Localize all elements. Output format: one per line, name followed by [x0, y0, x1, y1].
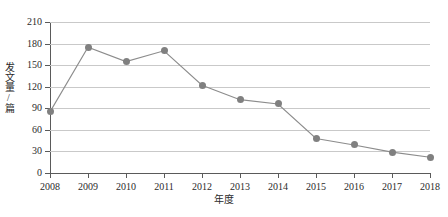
data-point-marker	[199, 82, 206, 89]
data-point-marker	[351, 141, 358, 148]
data-point-marker	[161, 47, 168, 54]
data-point-marker	[47, 108, 54, 115]
data-point-marker	[237, 96, 244, 103]
data-point-marker	[123, 58, 130, 65]
data-point-marker	[389, 149, 396, 156]
data-point-marker	[313, 135, 320, 142]
data-point-marker	[427, 154, 434, 161]
series-line	[0, 0, 448, 217]
data-point-marker	[85, 44, 92, 51]
line-chart: 0306090120150180210 20082009201020112012…	[0, 0, 448, 217]
